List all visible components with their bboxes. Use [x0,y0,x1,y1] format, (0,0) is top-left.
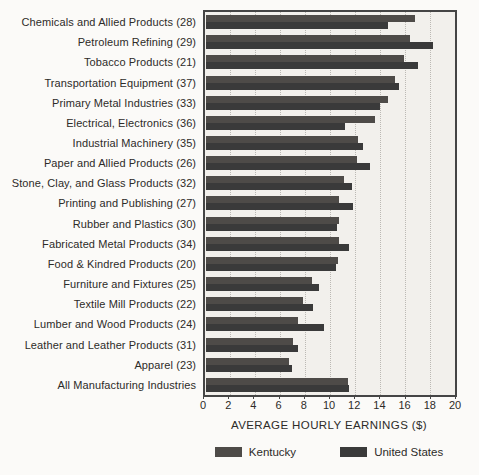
bar-group [206,173,455,193]
bar-group [206,234,455,254]
category-label: Food & Kindred Products (20) [0,254,204,274]
category-label: Leather and Leather Products (31) [0,335,204,355]
chart-row: Primary Metal Industries (33) [0,93,455,113]
tick-label: 0 [200,399,206,411]
category-label: Furniture and Fixtures (25) [0,274,204,294]
bar-kentucky [206,317,298,324]
bar-kentucky [206,217,339,224]
chart-row: Lumber and Wood Products (24) [0,314,455,334]
bar-kentucky [206,35,410,42]
bar-group [206,274,455,294]
bar-group [206,153,455,173]
bar-group [206,72,455,92]
tick-label: 14 [373,399,385,411]
bar-united-states [206,123,345,130]
bar-united-states [206,324,324,331]
chart-row: Leather and Leather Products (31) [0,335,455,355]
bar-group [206,294,455,314]
bar-united-states [206,22,388,29]
tick-label: 20 [449,399,461,411]
chart-row: Electrical, Electronics (36) [0,113,455,133]
category-label: Lumber and Wood Products (24) [0,314,204,334]
bar-group [206,93,455,113]
tick-label: 18 [424,399,436,411]
bar-group [206,335,455,355]
bar-group [206,12,455,32]
bar-group [206,355,455,375]
category-label: Paper and Allied Products (26) [0,153,204,173]
bar-united-states [206,345,298,352]
bar-kentucky [206,237,339,244]
tick-label: 2 [225,399,231,411]
bar-kentucky [206,15,415,22]
bar-kentucky [206,277,312,284]
legend-item-united-states: United States [340,446,443,458]
category-label: Primary Metal Industries (33) [0,93,204,113]
chart-row: Stone, Clay, and Glass Products (32) [0,173,455,193]
bar-group [206,52,455,72]
x-axis: 02468101214161820 [203,395,455,413]
chart-row: All Manufacturing Industries [0,375,455,395]
category-label: All Manufacturing Industries [0,375,204,395]
bar-united-states [206,42,432,49]
category-label: Chemicals and Allied Products (28) [0,12,204,32]
bar-kentucky [206,76,395,83]
category-label: Printing and Publishing (27) [0,193,204,213]
bar-group [206,32,455,52]
chart-row: Furniture and Fixtures (25) [0,274,455,294]
bar-group [206,314,455,334]
bar-kentucky [206,156,357,163]
category-label: Stone, Clay, and Glass Products (32) [0,173,204,193]
chart-row: Tobacco Products (21) [0,52,455,72]
bar-kentucky [206,378,348,385]
bar-group [206,254,455,274]
legend: KentuckyUnited States [203,446,455,458]
bar-kentucky [206,257,338,264]
bar-kentucky [206,338,293,345]
category-label: Textile Mill Products (22) [0,294,204,314]
bar-kentucky [206,176,344,183]
tick-label: 12 [348,399,360,411]
x-axis-title: AVERAGE HOURLY EARNINGS ($) [203,419,455,431]
bar-kentucky [206,196,339,203]
chart-row: Transportation Equipment (37) [0,72,455,92]
bar-kentucky [206,55,404,62]
tick-label: 4 [250,399,256,411]
legend-label-united-states: United States [374,446,443,458]
legend-item-kentucky: Kentucky [215,446,296,458]
legend-label-kentucky: Kentucky [249,446,296,458]
category-label: Transportation Equipment (37) [0,72,204,92]
bar-united-states [206,203,353,210]
tick-label: 6 [276,399,282,411]
bar-kentucky [206,116,375,123]
bar-united-states [206,224,337,231]
chart-row: Industrial Machinery (35) [0,133,455,153]
category-label: Electrical, Electronics (36) [0,113,204,133]
bar-united-states [206,385,349,392]
category-label: Tobacco Products (21) [0,52,204,72]
chart-row: Food & Kindred Products (20) [0,254,455,274]
category-label: Apparel (23) [0,355,204,375]
category-label: Industrial Machinery (35) [0,133,204,153]
chart-row: Paper and Allied Products (26) [0,153,455,173]
chart-row: Petroleum Refining (29) [0,32,455,52]
bar-group [206,133,455,153]
bar-united-states [206,264,335,271]
bar-united-states [206,284,319,291]
tick-label: 8 [301,399,307,411]
bar-united-states [206,163,370,170]
chart-row: Apparel (23) [0,355,455,375]
tick-label: 16 [398,399,410,411]
category-label: Rubber and Plastics (30) [0,214,204,234]
bar-united-states [206,304,313,311]
bar-united-states [206,62,418,69]
legend-swatch-kentucky [215,447,242,457]
bar-group [206,375,455,395]
category-label: Petroleum Refining (29) [0,32,204,52]
bar-group [206,193,455,213]
chart-row: Chemicals and Allied Products (28) [0,12,455,32]
chart-row: Textile Mill Products (22) [0,294,455,314]
bar-kentucky [206,297,303,304]
tick-label: 10 [323,399,335,411]
bar-kentucky [206,96,388,103]
